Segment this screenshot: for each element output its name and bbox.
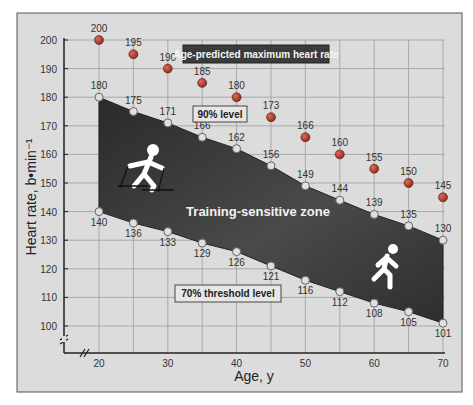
x-tick-label: 60 [369,358,381,369]
y-tick-label: 170 [40,121,57,132]
heart-rate-chart: 1001101201301401501601701801902002030405… [0,0,473,405]
level90-point [95,93,103,101]
level90-point [370,210,378,218]
max-hr-point [232,93,241,102]
max-hr-value: 145 [435,180,452,191]
y-tick-label: 150 [40,178,57,189]
level90-point [198,133,206,141]
level90-value: 171 [159,106,176,117]
level70-value: 121 [263,271,280,282]
max-hr-point [95,36,104,45]
level70-value: 112 [332,297,348,308]
max-hr-label: Age-predicted maximum heart rate [173,49,338,60]
x-tick-label: 30 [162,358,174,369]
y-tick-label: 140 [40,207,57,218]
level70-point [439,319,447,327]
level90-value: 162 [228,132,245,143]
y-tick-label: 190 [40,64,57,75]
level90-value: 156 [263,149,280,160]
y-tick-label: 120 [40,264,57,275]
level70-value: 101 [435,328,452,339]
max-hr-point [301,133,310,142]
y-axis-label: Heart rate, b•min⁻¹ [23,138,39,255]
level70-value: 126 [228,257,245,268]
level70-point [233,248,241,256]
x-tick-label: 50 [300,358,312,369]
max-hr-value: 173 [263,100,280,111]
x-tick-label: 70 [437,358,449,369]
max-hr-value: 195 [125,37,142,48]
max-hr-value: 200 [91,23,108,34]
y-tick-label: 160 [40,149,57,160]
level70-value: 116 [297,285,313,296]
level70-value: 140 [91,217,108,228]
y-tick-label: 110 [41,292,57,303]
level70-point [336,288,344,296]
level70-value: 105 [400,317,417,328]
level70-point [405,308,413,316]
max-hr-value: 180 [228,80,245,91]
level70-point [301,276,309,284]
level90-point [439,236,447,244]
level90-point [164,119,172,127]
max-hr-point [335,150,344,159]
level90-value: 149 [297,169,314,180]
level70-point [370,299,378,307]
y-tick-label: 180 [40,92,57,103]
level70-value: 133 [159,237,176,248]
level90-value: 144 [331,183,348,194]
max-hr-point [163,64,172,73]
level90-point [405,222,413,230]
y-tick-label: 100 [40,321,57,332]
max-hr-value: 166 [297,120,314,131]
y-tick-label: 200 [40,35,57,46]
level90-value: 135 [400,209,417,220]
level90-value: 130 [435,223,452,234]
max-hr-point [267,113,276,122]
level90-point [233,145,241,153]
level90-point [129,108,137,116]
y-tick-label: 130 [40,235,57,246]
level70-label: 70% threshold level [181,288,275,299]
level90-value: 139 [366,197,383,208]
level70-point [129,219,137,227]
level70-point [95,208,103,216]
zone-label: Training-sensitive zone [186,204,330,219]
level70-value: 129 [194,248,211,259]
max-hr-point [404,179,413,188]
max-hr-point [129,50,138,59]
max-hr-value: 155 [366,152,383,163]
level90-point [301,182,309,190]
level70-value: 136 [125,228,142,239]
max-hr-point [439,193,448,202]
x-axis-label: Age, y [234,368,274,384]
x-tick-label: 20 [93,358,105,369]
level90-point [336,196,344,204]
level90-point [267,162,275,170]
level90-value: 180 [91,80,108,91]
level90-label: 90% level [197,109,242,120]
max-hr-value: 185 [194,66,211,77]
level70-point [267,262,275,270]
level90-value: 175 [125,95,142,106]
level70-point [198,239,206,247]
max-hr-value: 150 [400,166,417,177]
level70-point [164,228,172,236]
max-hr-point [370,164,379,173]
max-hr-point [198,78,207,87]
level70-value: 108 [366,308,383,319]
max-hr-value: 160 [331,137,348,148]
